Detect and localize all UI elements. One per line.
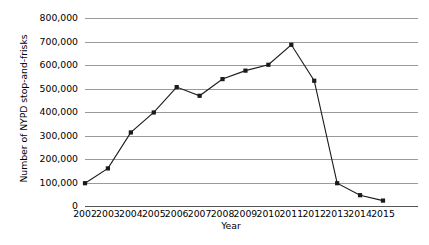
x-axis-tick-label: 2012 — [294, 208, 334, 219]
x-axis-tick-label: 2005 — [134, 208, 174, 219]
plot-area — [85, 18, 418, 206]
data-point-marker — [266, 63, 270, 67]
data-point-marker — [335, 181, 339, 185]
series-polyline — [85, 45, 383, 201]
x-axis-tick-label: 2007 — [180, 208, 220, 219]
x-axis-tick-label: 2006 — [157, 208, 197, 219]
y-axis-tick-label: 200,000 — [8, 154, 78, 164]
x-axis-tick-label: 2008 — [203, 208, 243, 219]
x-axis-tick-label: 2013 — [317, 208, 357, 219]
y-axis-tick-label: 400,000 — [8, 107, 78, 117]
data-point-marker — [312, 79, 316, 83]
x-axis-title: Year — [0, 220, 429, 231]
y-axis-tick-label: 800,000 — [8, 13, 78, 23]
data-point-marker — [198, 94, 202, 98]
x-axis-tick-label: 2003 — [88, 208, 128, 219]
x-axis-tick-label: 2011 — [271, 208, 311, 219]
data-point-marker — [381, 199, 385, 203]
y-axis-tick-label: 0 — [8, 201, 78, 211]
x-axis-baseline — [85, 206, 418, 207]
x-axis-tick-label: 2004 — [111, 208, 151, 219]
data-point-marker — [175, 85, 179, 89]
x-axis-tick-label: 2009 — [225, 208, 265, 219]
data-point-marker — [243, 69, 247, 73]
data-point-marker — [106, 166, 110, 170]
y-axis-tick-labels: 0100,000200,000300,000400,000500,000600,… — [0, 0, 78, 206]
y-axis-tick-label: 300,000 — [8, 131, 78, 141]
x-axis-tick-label: 2010 — [248, 208, 288, 219]
data-point-marker — [358, 193, 362, 197]
y-axis-tick-label: 700,000 — [8, 37, 78, 47]
x-axis-tick-label: 2014 — [340, 208, 380, 219]
y-axis-tick-label: 500,000 — [8, 84, 78, 94]
data-point-marker — [289, 43, 293, 47]
data-series-line — [85, 18, 418, 206]
data-point-marker — [129, 130, 133, 134]
data-point-marker — [152, 110, 156, 114]
x-axis-tick-label: 2015 — [363, 208, 403, 219]
data-point-marker — [83, 181, 87, 185]
y-axis-tick-label: 100,000 — [8, 178, 78, 188]
line-chart: Number of NYPD stop-and-frisks 0100,0002… — [0, 0, 429, 245]
data-point-marker — [220, 77, 224, 81]
y-axis-tick-label: 600,000 — [8, 60, 78, 70]
